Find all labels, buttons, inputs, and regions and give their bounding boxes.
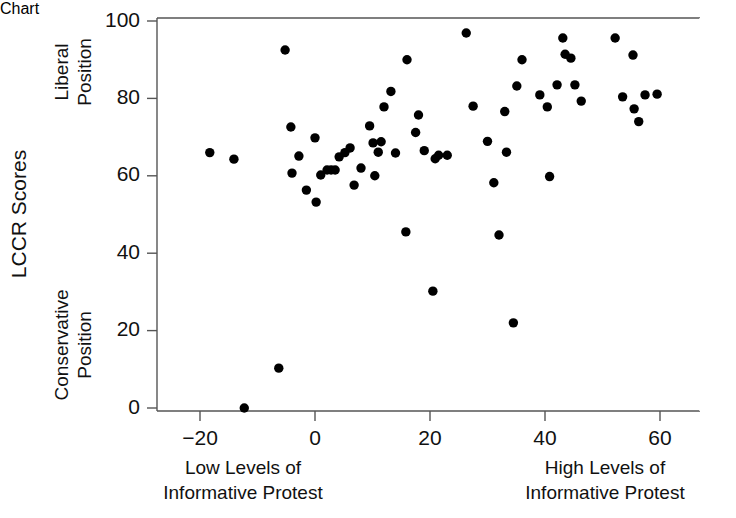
data-point <box>483 137 492 146</box>
data-point <box>280 45 289 54</box>
x-axis-low-annotation-line1: Low Levels of <box>185 457 302 478</box>
data-point <box>349 180 358 189</box>
y-tick-label: 20 <box>117 317 140 340</box>
data-point <box>368 138 377 147</box>
data-point <box>552 80 561 89</box>
data-point <box>570 80 579 89</box>
y-axis-title: LCCR Scores <box>7 150 30 278</box>
y-axis-conservative-annotation-line2: Position <box>74 311 95 379</box>
y-axis-ticks: 020406080100 <box>105 8 157 418</box>
x-axis-ticks: −200204060 <box>182 411 671 449</box>
x-tick-label: 60 <box>648 426 671 449</box>
data-point <box>286 122 295 131</box>
y-tick-label: 80 <box>117 85 140 108</box>
data-point <box>628 50 637 59</box>
data-point <box>443 151 452 160</box>
data-point <box>517 55 526 64</box>
data-point <box>652 89 661 98</box>
data-point <box>629 104 638 113</box>
data-point <box>509 318 518 327</box>
data-point <box>428 286 437 295</box>
data-point <box>386 87 395 96</box>
data-point <box>462 28 471 37</box>
x-axis-high-annotation-line1: High Levels of <box>545 457 666 478</box>
data-point <box>330 165 339 174</box>
data-point <box>302 185 311 194</box>
x-tick-label: 40 <box>533 426 556 449</box>
axes-group <box>157 18 700 411</box>
data-point <box>610 33 619 42</box>
data-point <box>634 117 643 126</box>
data-point <box>356 163 365 172</box>
x-tick-label: 20 <box>418 426 441 449</box>
data-point <box>345 143 354 152</box>
data-point <box>566 53 575 62</box>
data-point <box>512 81 521 90</box>
data-point <box>374 147 383 156</box>
data-point <box>376 137 385 146</box>
data-point <box>229 154 238 163</box>
data-point <box>287 168 296 177</box>
x-axis-low-annotation-line2: Informative Protest <box>163 482 323 503</box>
data-point <box>274 363 283 372</box>
plot-canvas: 020406080100 −200204060 LCCR Scores Libe… <box>0 0 736 518</box>
data-point <box>310 133 319 142</box>
data-point <box>558 33 567 42</box>
data-point <box>618 92 627 101</box>
data-points-layer <box>205 28 662 412</box>
data-point <box>640 90 649 99</box>
data-point <box>468 101 477 110</box>
data-point <box>434 151 443 160</box>
y-tick-label: 40 <box>117 240 140 263</box>
data-point <box>205 148 214 157</box>
data-point <box>391 148 400 157</box>
y-tick-label: 100 <box>105 8 140 31</box>
y-axis-conservative-annotation-line1: Conservative <box>51 290 72 401</box>
data-point <box>365 121 374 130</box>
data-point <box>577 96 586 105</box>
data-point <box>543 102 552 111</box>
data-point <box>502 147 511 156</box>
y-axis-liberal-annotation-line2: Position <box>74 38 95 106</box>
data-point <box>240 403 249 412</box>
y-tick-label: 60 <box>117 162 140 185</box>
x-tick-label: −20 <box>182 426 218 449</box>
data-point <box>402 55 411 64</box>
data-point <box>489 178 498 187</box>
y-axis-liberal-annotation-line1: Liberal <box>51 43 72 100</box>
data-point <box>411 128 420 137</box>
data-point <box>494 230 503 239</box>
y-tick-label: 0 <box>128 395 140 418</box>
data-point <box>401 227 410 236</box>
data-point <box>535 90 544 99</box>
data-point <box>294 151 303 160</box>
data-point <box>370 171 379 180</box>
x-axis-high-annotation-line2: Informative Protest <box>525 482 685 503</box>
x-tick-label: 0 <box>309 426 321 449</box>
data-point <box>500 107 509 116</box>
data-point <box>379 102 388 111</box>
data-point <box>420 146 429 155</box>
data-point <box>545 172 554 181</box>
scatter-plot-figure: 020406080100 −200204060 LCCR Scores Libe… <box>0 0 736 518</box>
data-point <box>311 197 320 206</box>
data-point <box>414 110 423 119</box>
